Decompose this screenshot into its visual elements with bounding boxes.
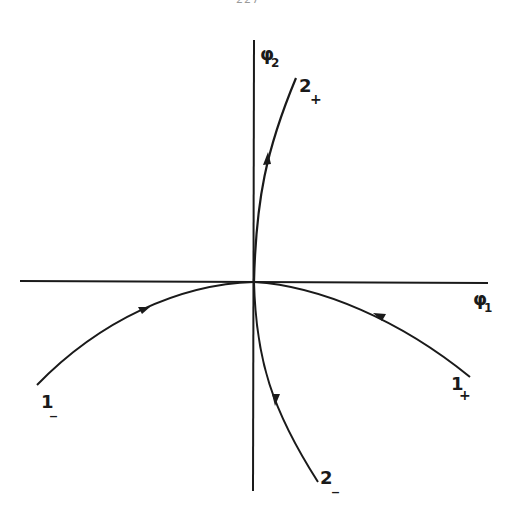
curve-label-1-minus-sub: _ — [50, 401, 57, 418]
curve-1-plus — [254, 282, 470, 377]
y-axis-subscript: 2 — [271, 56, 279, 70]
curve-1-minus — [37, 282, 254, 385]
curve-label-2-minus-sub: _ — [332, 477, 339, 494]
curve-label-1-plus-sub: + — [459, 387, 471, 403]
curve-2-plus — [254, 78, 296, 282]
phase-diagram: φ 2 φ 1 2 + 2 _ 1 + 1 _ — [0, 0, 514, 531]
curve-2-minus — [254, 282, 318, 482]
x-axis-subscript: 1 — [484, 301, 492, 315]
curve-label-2-minus: 2 — [320, 467, 333, 488]
curve-label-2-plus-sub: + — [310, 91, 322, 107]
